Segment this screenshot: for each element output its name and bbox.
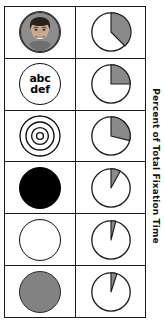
table-row: abc def	[5, 59, 145, 111]
stimulus-cell-gray-circle	[5, 266, 76, 317]
text-circle-line2: def	[30, 84, 50, 95]
stimulus-cell-black-circle	[5, 162, 76, 213]
pie-cell	[76, 7, 145, 58]
pie-cell	[76, 214, 145, 265]
pie-cell	[76, 162, 145, 213]
pie-cell	[76, 59, 145, 110]
hollow-white-circle-icon	[19, 219, 61, 261]
pie-cell	[76, 111, 145, 162]
table-row	[5, 266, 145, 317]
axis-label: Percent of Total Fixation Time	[148, 0, 164, 332]
pie-chart	[90, 219, 132, 261]
fixation-time-figure: abc def	[0, 0, 164, 332]
axis-label-text: Percent of Total Fixation Time	[151, 88, 161, 243]
solid-black-circle-icon	[19, 167, 61, 209]
pie-chart	[90, 11, 132, 53]
concentric-rings-icon	[19, 115, 61, 157]
stimulus-cell-text: abc def	[5, 59, 76, 110]
table-row	[5, 111, 145, 163]
stimulus-cell-white-circle	[5, 214, 76, 265]
pie-chart	[90, 167, 132, 209]
face-photo-icon	[19, 11, 61, 53]
table-row	[5, 162, 145, 214]
pie-cell	[76, 266, 145, 317]
pie-chart	[90, 115, 132, 157]
solid-gray-circle-icon	[19, 271, 61, 313]
stimulus-cell-face	[5, 7, 76, 58]
table-row	[5, 214, 145, 266]
pie-chart	[90, 63, 132, 105]
pie-chart	[90, 271, 132, 313]
table-row	[5, 7, 145, 59]
stimulus-pie-table: abc def	[4, 6, 146, 318]
text-circle-icon: abc def	[19, 63, 61, 105]
stimulus-cell-rings	[5, 111, 76, 162]
